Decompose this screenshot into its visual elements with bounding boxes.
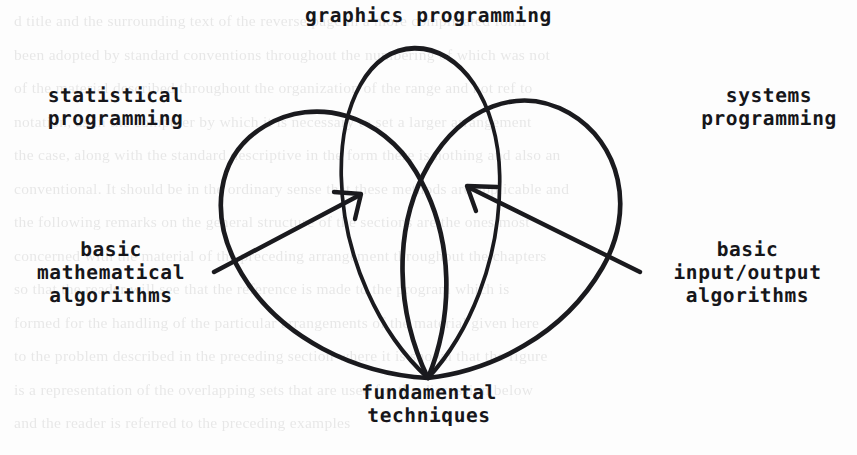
label-systems-programming: systems programming bbox=[684, 84, 854, 130]
basic-mathematical-algorithms-arrow[interactable] bbox=[214, 192, 361, 272]
label-statistical-programming: statistical programming bbox=[8, 84, 223, 130]
scanned-page: d title and the surrounding text of the … bbox=[0, 0, 857, 455]
graphics-programming-petal[interactable] bbox=[339, 47, 503, 380]
basic-input-output-algorithms-arrow[interactable] bbox=[467, 186, 640, 272]
label-basic-mathematical-algorithms: basic mathematical algorithms bbox=[0, 238, 222, 307]
label-basic-input-output-algorithms: basic input/output algorithms bbox=[640, 238, 855, 307]
label-fundamental-techniques: fundamental techniques bbox=[289, 381, 569, 427]
label-graphics-programming: graphics programming bbox=[0, 4, 857, 27]
